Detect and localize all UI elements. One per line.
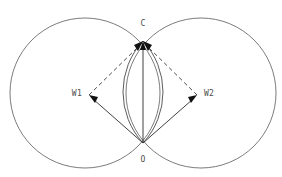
vesica-piscis-figure: C O W1 W2 bbox=[0, 0, 282, 177]
right-circle bbox=[126, 18, 276, 168]
label-apex-c: C bbox=[140, 19, 145, 28]
geometry-diagram: C O W1 W2 bbox=[0, 0, 282, 177]
vector-o-to-w1 bbox=[93, 99, 143, 143]
label-left-center-w1: W1 bbox=[72, 89, 82, 98]
vector-w2-to-c bbox=[147, 46, 197, 95]
label-right-center-w2: W2 bbox=[204, 89, 214, 98]
vector-o-to-w2 bbox=[143, 99, 193, 143]
left-circle bbox=[10, 18, 160, 168]
label-origin-o: O bbox=[140, 155, 145, 164]
vector-w1-to-c bbox=[89, 46, 139, 95]
